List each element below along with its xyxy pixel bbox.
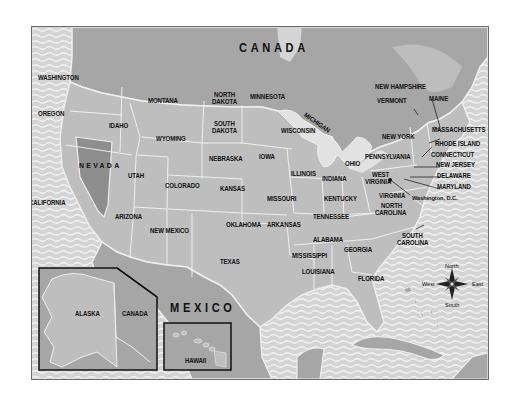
- label-illinois: ILLINOIS: [291, 170, 316, 177]
- label-virginia: VIRGINIA: [379, 192, 405, 199]
- label-missouri: MISSOURI: [267, 195, 296, 202]
- label-new-mexico: NEW MEXICO: [150, 227, 189, 234]
- label-washington: WASHINGTON: [38, 74, 79, 81]
- label-hawaii: HAWAII: [185, 357, 206, 364]
- label-louisiana: LOUISIANA: [302, 268, 335, 275]
- label-wisconsin: WISCONSIN: [281, 127, 315, 134]
- label-tennessee: TENNESSEE: [313, 213, 349, 220]
- label-montana: MONTANA: [148, 97, 178, 104]
- label-kansas: KANSAS: [220, 185, 245, 192]
- label-north-dakota-2: DAKOTA: [212, 98, 237, 105]
- label-washington-dc: Washington, D.C.: [412, 194, 457, 201]
- label-rhode-island: RHODE ISLAND: [435, 140, 480, 147]
- label-new-york: NEW YORK: [382, 133, 415, 140]
- label-vermont: VERMONT: [377, 97, 407, 104]
- label-west-virginia-1: WEST: [372, 171, 389, 178]
- label-indiana: INDIANA: [322, 175, 347, 182]
- label-maine: MAINE: [429, 95, 448, 102]
- label-alabama: ALABAMA: [313, 236, 343, 243]
- compass-south-label: South: [445, 302, 459, 308]
- label-arizona: ARIZONA: [115, 213, 142, 220]
- compass-east-label: East: [472, 281, 483, 287]
- label-utah: UTAH: [128, 172, 144, 179]
- label-nebraska: NEBRASKA: [209, 155, 243, 162]
- label-idaho: IDAHO: [109, 122, 128, 129]
- label-south-dakota-2: DAKOTA: [212, 127, 237, 134]
- label-south-carolina-1: SOUTH: [402, 232, 423, 239]
- label-canada: CANADA: [239, 42, 309, 55]
- label-north-dakota-1: NORTH: [214, 91, 235, 98]
- label-florida: FLORIDA: [358, 275, 384, 282]
- label-south-dakota-1: SOUTH: [214, 120, 235, 127]
- label-south-carolina-2: CAROLINA: [397, 239, 428, 246]
- compass-west-label: West: [422, 281, 434, 287]
- label-north-carolina-2: CAROLINA: [375, 209, 406, 216]
- map-graphic: [32, 27, 488, 379]
- label-oklahoma: OKLAHOMA: [226, 221, 261, 228]
- label-alaska: ALASKA: [75, 310, 100, 317]
- label-ohio: OHIO: [345, 160, 360, 167]
- label-georgia: GEORGIA: [344, 246, 372, 253]
- label-california: CALIFORNIA: [31, 199, 65, 206]
- label-massachusetts: MASSACHUSETTS: [432, 126, 485, 133]
- label-texas: TEXAS: [220, 258, 240, 265]
- us-map: CANADA MEXICO CANADA WASHINGTON OREGON C…: [31, 26, 489, 380]
- label-connecticut: CONNECTICUT: [431, 151, 474, 158]
- compass-north-label: North: [445, 263, 458, 269]
- label-iowa: IOWA: [259, 153, 275, 160]
- label-new-hampshire: NEW HAMPSHIRE: [375, 83, 426, 90]
- label-north-carolina-1: NORTH: [381, 202, 402, 209]
- label-minnesota: MINNESOTA: [250, 93, 285, 100]
- label-arkansas: ARKANSAS: [267, 221, 301, 228]
- label-west-virginia-2: VIRGINIA: [365, 178, 391, 185]
- label-maryland: MARYLAND: [437, 183, 471, 190]
- label-mississippi: MISSISSIPPI: [292, 252, 327, 259]
- label-canada-inset: CANADA: [122, 310, 148, 317]
- label-pennsylvania: PENNSYLVANIA: [365, 153, 411, 160]
- label-kentucky: KENTUCKY: [324, 195, 357, 202]
- label-delaware: DELAWARE: [437, 172, 471, 179]
- label-nevada: NEVADA: [79, 162, 121, 169]
- label-mexico: MEXICO: [170, 302, 236, 315]
- label-new-jersey: NEW JERSEY: [436, 161, 475, 168]
- label-oregon: OREGON: [38, 110, 64, 117]
- alaska-inset: [39, 268, 157, 370]
- label-colorado: COLORADO: [165, 182, 200, 189]
- label-wyoming: WYOMING: [156, 135, 186, 142]
